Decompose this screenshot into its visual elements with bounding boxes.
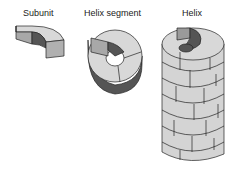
diagram-canvas	[0, 0, 236, 171]
subunit-block	[16, 26, 64, 58]
helix-segment	[88, 30, 142, 94]
helix-tower	[162, 28, 224, 161]
